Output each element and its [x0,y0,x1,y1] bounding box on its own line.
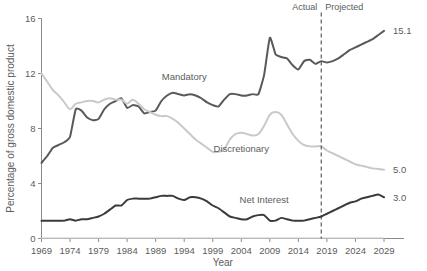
chart-text-labels: YearPercentage of gross domestic product… [5,25,412,268]
y-axis-tick-label: 4 [30,178,35,189]
series-line-net-interest [42,194,385,220]
y-axis-tick-label: 16 [25,13,36,24]
series-end-value-mandatory: 15.1 [393,25,412,36]
x-axis-tick-label: 1969 [31,245,52,256]
x-axis-tick-label: 1974 [59,245,80,256]
x-axis-tick-label: 1979 [88,245,109,256]
projected-label: Projected [325,2,363,12]
y-axis-title: Percentage of gross domestic product [5,44,16,213]
x-axis-tick-label: 1999 [202,245,223,256]
x-axis-tick-label: 1984 [117,245,138,256]
x-axis-tick-label: 2029 [373,245,394,256]
x-axis-tick-label: 1994 [174,245,195,256]
x-axis-tick-label: 2019 [316,245,337,256]
series-line-discretionary [42,74,385,170]
actual-label: Actual [292,2,317,12]
x-axis-tick-label: 1989 [145,245,166,256]
y-axis-tick-label: 12 [25,68,36,79]
x-axis-tick-label: 2009 [259,245,280,256]
x-axis-tick-label: 2024 [345,245,366,256]
series-end-value-discretionary: 5.0 [393,164,406,175]
series-end-value-net-interest: 3.0 [393,192,406,203]
chart-svg: 0481216196919741979198419891994199920042… [0,0,427,271]
series-label-discretionary: Discretionary [214,143,270,154]
x-axis-title: Year [213,257,234,268]
gdp-outlays-chart: 0481216196919741979198419891994199920042… [0,0,427,271]
x-axis-tick-label: 2004 [231,245,252,256]
y-axis-tick-label: 0 [30,233,35,244]
series-lines [42,31,385,238]
series-label-net-interest: Net Interest [240,194,289,205]
series-label-mandatory: Mandatory [162,71,207,82]
y-axis-tick-label: 8 [30,123,35,134]
x-axis-tick-label: 2014 [288,245,309,256]
